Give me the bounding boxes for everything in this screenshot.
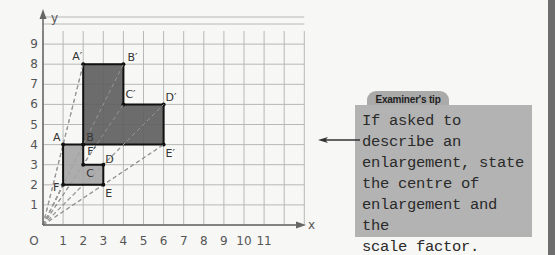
vertex-point [81,163,85,167]
vertex-label: F [53,181,59,194]
vertex-label: E [105,187,112,200]
x-tick-label: 8 [200,234,208,248]
vertex-label: D [105,153,113,166]
examiners-tip-box: If asked to describe an enlargement, sta… [355,105,532,237]
x-tick-label: 4 [120,234,128,248]
x-tick-label: 2 [79,234,87,248]
x-tick-label: 6 [160,234,168,248]
y-tick-label: 6 [30,97,38,111]
y-tick-label: 1 [30,198,38,212]
y-tick-label: 9 [30,37,38,51]
vertex-point [81,143,85,147]
y-axis-label: y [51,11,58,25]
vertex-label: B [86,131,94,144]
vertex-point [61,143,65,147]
tick-labels: 1234567891011123456789Oyx [29,11,315,248]
vertex-label: A′ [72,50,83,63]
vertex-label: A [53,131,61,144]
coordinate-graph: 1234567891011123456789Oyx ABCDEFA′B′C′D′… [0,0,340,255]
vertex-label: E′ [166,147,176,160]
vertex-label: F′ [87,145,96,158]
shapes [43,62,166,225]
vertex-label: B′ [127,51,138,64]
examiners-tip-text: If asked to describe an enlargement, sta… [362,111,528,255]
y-axis-arrowhead [40,9,47,19]
y-tick-label: 7 [30,77,38,91]
y-tick-label: 4 [30,138,38,152]
axes [40,9,307,229]
x-tick-label: 7 [180,234,188,248]
vertex-label: C [86,167,94,180]
vertex-label: D′ [166,91,177,104]
x-tick-label: 5 [140,234,148,248]
vertex-point [61,183,65,187]
y-tick-label: 3 [30,158,38,172]
origin-label: O [29,234,38,248]
x-tick-label: 10 [236,234,251,248]
x-axis-label: x [308,218,315,232]
x-tick-label: 1 [59,234,67,248]
x-tick-label: 3 [99,234,107,248]
y-tick-label: 8 [30,57,38,71]
y-tick-label: 2 [30,178,38,192]
vertex-label: C′ [125,88,136,101]
y-tick-label: 5 [30,118,38,132]
grid-lines [43,17,304,225]
x-tick-label: 9 [220,234,228,248]
left-arrow-icon [318,137,360,143]
x-tick-label: 11 [256,234,271,248]
page-edge-bar [548,0,555,255]
